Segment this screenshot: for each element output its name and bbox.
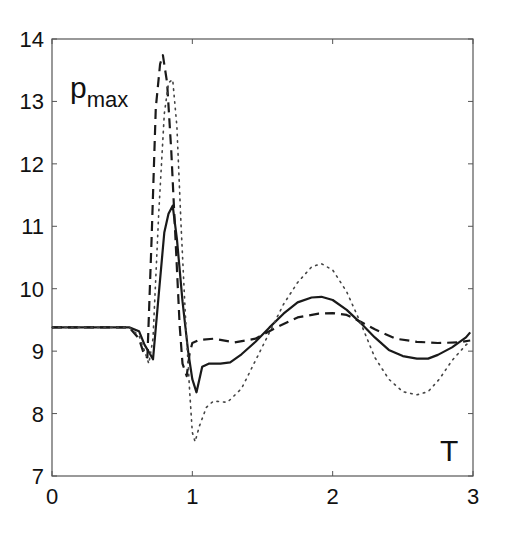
y-tick-label: 9: [32, 339, 44, 364]
y-tick-label: 7: [32, 464, 44, 489]
x-tick-label: 1: [186, 484, 198, 509]
y-axis-label: pmax: [70, 71, 128, 112]
x-axis-label: T: [440, 434, 458, 467]
series-dotted-line: [52, 80, 470, 442]
x-tick-label: 2: [327, 484, 339, 509]
y-tick-label: 14: [20, 27, 44, 52]
y-tick-label: 8: [32, 402, 44, 427]
y-tick-label: 10: [20, 277, 44, 302]
x-tick-label: 0: [46, 484, 58, 509]
x-tick-label: 3: [467, 484, 479, 509]
y-tick-label: 13: [20, 89, 44, 114]
y-tick-label: 12: [20, 152, 44, 177]
y-axis-label-main: p: [70, 71, 87, 104]
y-axis-label-sub: max: [87, 87, 129, 112]
data-series: [52, 55, 470, 442]
y-tick-label: 11: [21, 214, 44, 239]
series-solid-line: [52, 206, 470, 393]
line-chart: 01237891011121314 pmax T: [0, 0, 505, 533]
